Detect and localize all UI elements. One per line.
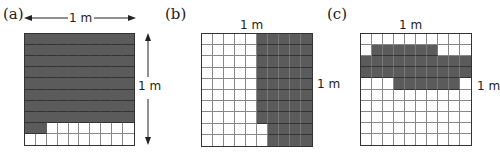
panel-b-label: (b)	[165, 6, 186, 22]
shaded-cell	[301, 56, 312, 67]
shaded-cell	[301, 112, 312, 123]
empty-cell	[202, 79, 213, 90]
empty-cell	[202, 135, 213, 146]
empty-cell	[224, 135, 235, 146]
shaded-cell	[36, 112, 47, 123]
shaded-cell	[290, 135, 301, 146]
empty-cell	[25, 134, 36, 145]
empty-cell	[202, 124, 213, 135]
empty-cell	[460, 101, 471, 112]
empty-cell	[79, 134, 90, 145]
empty-cell	[449, 101, 460, 112]
shaded-cell	[112, 67, 123, 78]
shaded-cell	[427, 78, 438, 89]
shaded-cell	[257, 45, 268, 56]
empty-cell	[460, 123, 471, 134]
shaded-cell	[301, 79, 312, 90]
shaded-cell	[257, 112, 268, 123]
empty-cell	[372, 112, 383, 123]
empty-cell	[460, 34, 471, 45]
empty-cell	[383, 134, 394, 145]
empty-cell	[460, 90, 471, 101]
panel-a-label: (a)	[3, 6, 24, 22]
empty-cell	[202, 90, 213, 101]
empty-cell	[246, 45, 257, 56]
shaded-cell	[257, 79, 268, 90]
empty-cell	[438, 34, 449, 45]
empty-cell	[90, 134, 101, 145]
shaded-cell	[123, 67, 134, 78]
empty-cell	[460, 112, 471, 123]
shaded-cell	[36, 56, 47, 67]
panel-b-width-label: 1 m	[240, 19, 263, 31]
shaded-cell	[79, 112, 90, 123]
shaded-cell	[290, 79, 301, 90]
shaded-cell	[79, 34, 90, 45]
empty-cell	[235, 45, 246, 56]
shaded-cell	[301, 68, 312, 79]
empty-cell	[213, 68, 224, 79]
shaded-cell	[69, 78, 80, 89]
empty-cell	[372, 78, 383, 89]
empty-cell	[257, 124, 268, 135]
empty-cell	[416, 112, 427, 123]
shaded-cell	[112, 45, 123, 56]
empty-cell	[202, 34, 213, 45]
panel-a-grid	[24, 33, 135, 146]
shaded-cell	[383, 45, 394, 56]
shaded-cell	[279, 112, 290, 123]
shaded-cell	[101, 101, 112, 112]
empty-cell	[383, 112, 394, 123]
empty-cell	[372, 101, 383, 112]
empty-cell	[246, 135, 257, 146]
empty-cell	[224, 34, 235, 45]
shaded-cell	[79, 78, 90, 89]
shaded-cell	[290, 45, 301, 56]
empty-cell	[416, 90, 427, 101]
shaded-cell	[101, 56, 112, 67]
shaded-cell	[416, 45, 427, 56]
empty-cell	[438, 134, 449, 145]
empty-cell	[213, 135, 224, 146]
shaded-cell	[438, 56, 449, 67]
empty-cell	[460, 134, 471, 145]
shaded-cell	[79, 90, 90, 101]
shaded-cell	[79, 56, 90, 67]
shaded-cell	[58, 45, 69, 56]
shaded-cell	[25, 101, 36, 112]
shaded-cell	[69, 56, 80, 67]
shaded-cell	[90, 34, 101, 45]
empty-cell	[235, 112, 246, 123]
shaded-cell	[383, 67, 394, 78]
empty-cell	[416, 134, 427, 145]
shaded-cell	[394, 56, 405, 67]
empty-cell	[361, 123, 372, 134]
shaded-cell	[427, 56, 438, 67]
shaded-cell	[47, 78, 58, 89]
shaded-cell	[123, 56, 134, 67]
empty-cell	[427, 90, 438, 101]
empty-cell	[394, 101, 405, 112]
empty-cell	[246, 68, 257, 79]
shaded-cell	[90, 67, 101, 78]
empty-cell	[58, 123, 69, 134]
shaded-cell	[257, 34, 268, 45]
shaded-cell	[361, 56, 372, 67]
empty-cell	[112, 134, 123, 145]
empty-cell	[202, 68, 213, 79]
empty-cell	[213, 112, 224, 123]
panel-a-width-label: 1 m	[69, 12, 92, 24]
shaded-cell	[36, 90, 47, 101]
shaded-cell	[58, 101, 69, 112]
empty-cell	[383, 101, 394, 112]
empty-cell	[416, 123, 427, 134]
shaded-cell	[112, 101, 123, 112]
shaded-cell	[268, 101, 279, 112]
empty-cell	[224, 101, 235, 112]
panel-c-width-label: 1 m	[399, 19, 422, 31]
empty-cell	[438, 90, 449, 101]
shaded-cell	[449, 78, 460, 89]
shaded-cell	[279, 101, 290, 112]
shaded-cell	[47, 56, 58, 67]
empty-cell	[112, 123, 123, 134]
